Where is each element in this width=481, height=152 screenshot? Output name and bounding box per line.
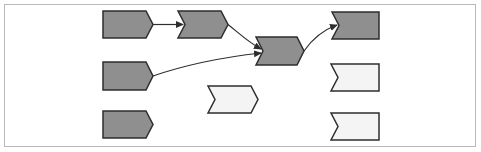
nodes — [103, 11, 379, 140]
node-n2-chevron-filled — [178, 11, 228, 38]
node-n9-end-notch-empty — [331, 113, 379, 140]
node-n3-chevron-filled — [256, 37, 304, 65]
node-n6-chevron-empty — [208, 86, 258, 113]
node-n8-start-chevron-filled — [103, 111, 153, 138]
node-n7-end-notch-empty — [331, 64, 379, 91]
edge-n5-n3 — [153, 53, 261, 76]
node-n1-start-chevron-filled — [103, 11, 153, 38]
node-n4-end-notch-filled — [332, 12, 379, 39]
flow-diagram — [0, 0, 481, 152]
node-n5-start-chevron-filled — [103, 62, 153, 90]
